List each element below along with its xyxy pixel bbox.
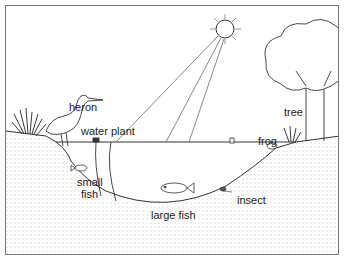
tree-icon: [265, 19, 339, 141]
label-insect: insect: [237, 194, 266, 206]
label-frog: frog: [258, 135, 277, 147]
label-small-fish-1: small: [77, 176, 103, 188]
label-large-fish: large fish: [151, 209, 196, 221]
grass-icon: [284, 126, 301, 142]
reeds-icon: [12, 108, 46, 136]
label-small-fish-2: fish: [81, 188, 98, 200]
label-tree: tree: [284, 106, 303, 118]
pond-ecosystem-diagram: heron water plant small fish large fish …: [5, 5, 339, 255]
large-fish-icon: [161, 183, 194, 193]
label-heron: heron: [69, 101, 97, 113]
float-icon: [230, 138, 234, 143]
label-water-plant: water plant: [81, 125, 135, 137]
